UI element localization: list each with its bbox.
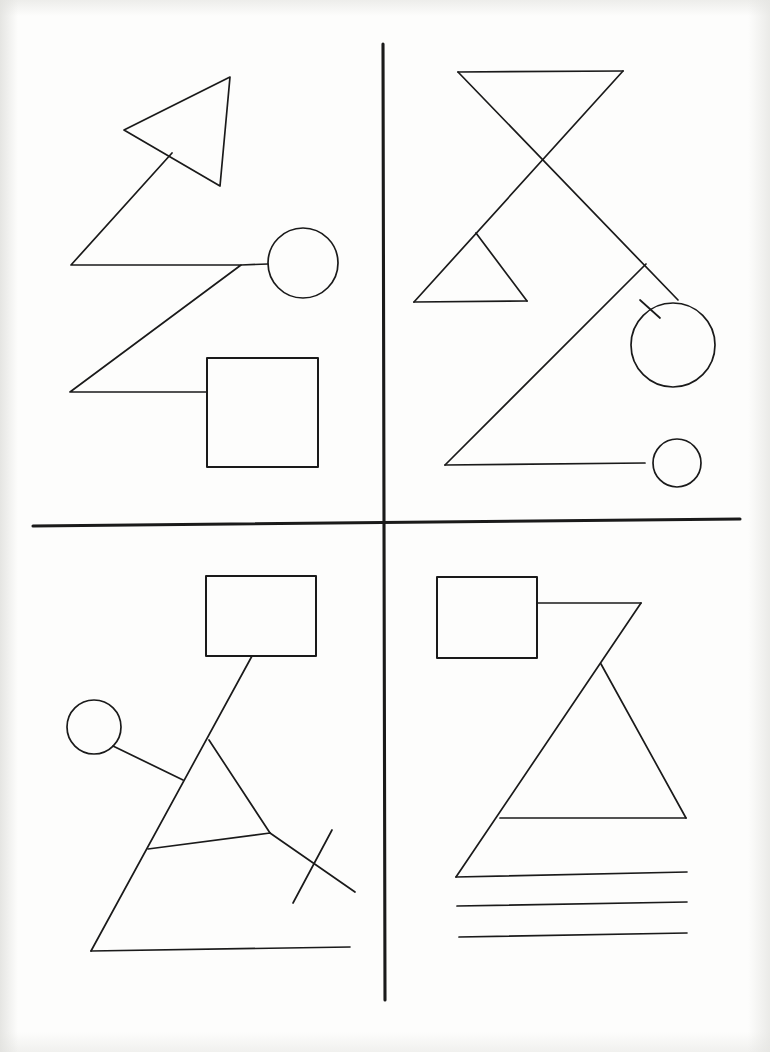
quadrant-top-left — [70, 77, 338, 467]
circle-connector-line — [113, 746, 183, 780]
triangle-outline — [124, 77, 230, 186]
rectangle-outline — [206, 576, 316, 656]
bowtie-right-diagonal — [414, 71, 623, 302]
connector-line-to-circle — [241, 264, 268, 265]
drawing-sheet — [0, 0, 770, 1052]
baseline-line-3 — [459, 933, 687, 937]
large-triangle-base — [445, 463, 645, 465]
cross-stroke-line — [293, 830, 332, 903]
triangle-left-edge — [456, 603, 641, 877]
tail-line — [270, 833, 355, 892]
small-triangle-base — [414, 301, 527, 302]
baseline-line — [91, 947, 350, 951]
triangle-apex-right-edge — [601, 664, 686, 818]
rectangle-outline — [437, 577, 537, 658]
quadrant-dividers — [33, 44, 740, 1000]
bowtie-top-bar — [458, 71, 623, 72]
line-drawing-canvas — [0, 0, 770, 1052]
inner-triangle-base — [148, 833, 270, 849]
square-outline — [207, 358, 318, 467]
circle-outline — [268, 228, 338, 298]
zigzag-polyline — [70, 153, 241, 392]
small-circle-outline — [653, 439, 701, 487]
small-triangle-right-edge — [476, 233, 527, 301]
quadrant-bottom-right — [437, 577, 687, 937]
main-diagonal-line — [91, 656, 252, 951]
inner-triangle-right-edge — [209, 740, 270, 833]
horizontal-divider — [33, 519, 740, 526]
quadrant-top-right — [414, 71, 715, 487]
large-triangle-left-edge — [445, 264, 646, 465]
large-circle-outline — [631, 303, 715, 387]
quadrant-bottom-left — [67, 576, 355, 951]
baseline-line-2 — [457, 902, 687, 906]
baseline-line-1 — [456, 872, 687, 877]
